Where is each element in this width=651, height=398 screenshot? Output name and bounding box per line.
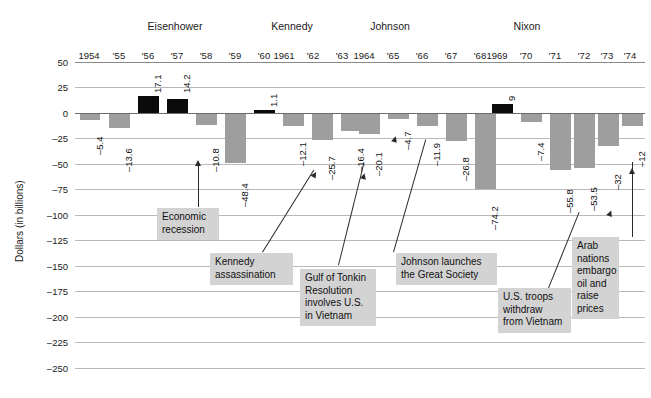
ytick-label-neg25: –25 — [38, 133, 68, 144]
year-label-1968: '68 — [474, 50, 486, 61]
bar-value-1956: 17.1 — [152, 75, 163, 94]
year-label-1970: '70 — [520, 50, 532, 61]
group-label-nixon: Nixon — [514, 20, 541, 32]
year-label-1955: '55 — [113, 50, 125, 61]
bar-value-1974: –12 — [636, 151, 647, 167]
year-label-1961: 1961 — [273, 50, 294, 61]
bar-value-1954: –5.4 — [94, 137, 105, 156]
bar-1956 — [138, 96, 159, 113]
bar-value-1957: 14.2 — [181, 75, 192, 94]
bar-value-1967: –26.8 — [460, 157, 471, 181]
ytick-label-0: 0 — [38, 108, 68, 119]
leader-arrow-kennedy-assassination — [310, 170, 318, 178]
annotation-great-society: Johnson launches the Great Society — [396, 253, 497, 285]
bar-1968 — [475, 114, 496, 189]
year-label-1956: '56 — [142, 50, 154, 61]
ytick-label-neg75: –75 — [38, 184, 68, 195]
year-label-1959: '59 — [229, 50, 241, 61]
ytick-label-neg225: –225 — [34, 337, 68, 348]
bar-value-1963: –16.4 — [355, 148, 366, 172]
year-label-1958: '58 — [200, 50, 212, 61]
bar-value-1959: –48.4 — [239, 183, 250, 207]
bar-value-1971: –55.8 — [564, 189, 575, 213]
year-label-1967: '67 — [445, 50, 457, 61]
year-label-1971: '71 — [549, 50, 561, 61]
federal-deficit-bar-chart: Eisenhower Kennedy Johnson Nixon 1954 '5… — [0, 0, 651, 398]
ytick-label-neg100: –100 — [34, 210, 68, 221]
bar-value-1955: –13.6 — [123, 148, 134, 172]
gridline-neg225 — [75, 342, 645, 343]
leader-line-economic-recession — [198, 165, 199, 207]
year-label-1965: '65 — [387, 50, 399, 61]
gridline-50 — [75, 62, 645, 63]
bar-1955 — [109, 114, 130, 128]
bar-value-1968: –74.2 — [489, 206, 500, 230]
bar-1967 — [446, 114, 467, 141]
bar-value-1965: –4.7 — [402, 132, 413, 151]
gridline-neg150 — [75, 266, 645, 267]
ytick-label-50: 50 — [38, 57, 68, 68]
group-label-kennedy: Kennedy — [271, 20, 312, 32]
gridline-neg75 — [75, 189, 645, 190]
gridline-neg250 — [75, 368, 645, 369]
year-label-1954: 1954 — [78, 50, 99, 61]
annotation-kennedy-assassination: Kennedy assassination — [210, 253, 293, 285]
bar-value-1969: 9 — [506, 96, 517, 101]
annotation-troops-withdraw: U.S. troops withdraw from Vietnam — [498, 288, 571, 333]
bar-1970 — [521, 114, 542, 122]
bar-1972 — [574, 114, 595, 168]
year-label-1972: '72 — [578, 50, 590, 61]
leader-line-great-society — [393, 140, 426, 253]
ytick-label-neg50: –50 — [38, 159, 68, 170]
year-label-1964: 1964 — [353, 50, 374, 61]
year-label-1957: '57 — [171, 50, 183, 61]
bar-value-1970: –7.4 — [535, 143, 546, 162]
ytick-label-neg175: –175 — [34, 286, 68, 297]
ytick-label-neg150: –150 — [34, 261, 68, 272]
ytick-label-25: 25 — [38, 82, 68, 93]
bar-1974 — [622, 114, 643, 126]
bar-1966 — [417, 114, 438, 126]
bar-1954 — [80, 114, 100, 120]
bar-value-1966: –11.9 — [431, 143, 442, 166]
group-label-eisenhower: Eisenhower — [148, 20, 203, 32]
ytick-label-neg125: –125 — [34, 235, 68, 246]
bar-value-1972: –53.5 — [588, 187, 599, 211]
ytick-label-neg250: –250 — [34, 363, 68, 374]
bar-1957 — [167, 99, 188, 113]
bar-1971 — [550, 114, 571, 170]
leader-arrow-economic-recession — [195, 160, 201, 166]
year-label-1960: '60 — [258, 50, 270, 61]
annotation-oil-embargo: Arab nations embargo oil and raise price… — [572, 237, 619, 319]
bar-1969 — [492, 104, 513, 113]
gridline-neg125 — [75, 240, 645, 241]
year-label-1963: '63 — [336, 50, 348, 61]
leader-arrow-great-society — [391, 135, 398, 142]
bar-1958 — [196, 114, 217, 125]
year-label-1974: '74 — [624, 50, 636, 61]
leader-arrow-oil-embargo — [629, 168, 635, 174]
bar-1962 — [312, 114, 333, 140]
year-label-1962: '62 — [307, 50, 319, 61]
bar-value-1962: –25.7 — [326, 156, 337, 180]
bar-1959 — [225, 114, 246, 163]
annotation-gulf-of-tonkin: Gulf of Tonkin Resolution involves U.S. … — [300, 269, 376, 326]
bar-1964 — [359, 114, 380, 134]
bar-value-1960: 1.1 — [268, 94, 279, 107]
leader-arrow-gulf-of-tonkin — [360, 172, 367, 179]
bar-1961 — [283, 114, 304, 126]
annotation-economic-recession: Economic recession — [157, 208, 219, 240]
y-axis-title: Dollars (in billions) — [14, 180, 25, 262]
year-label-1966: '66 — [416, 50, 428, 61]
bar-value-1961: –12.1 — [297, 142, 308, 166]
bar-value-1958: –10.8 — [210, 148, 221, 172]
year-label-1973: '73 — [601, 50, 613, 61]
bar-value-1973: –32 — [612, 174, 623, 190]
bar-1965 — [388, 114, 409, 119]
year-label-1969: 1969 — [486, 50, 507, 61]
ytick-label-neg200: –200 — [34, 312, 68, 323]
bar-1973 — [598, 114, 619, 146]
group-label-johnson: Johnson — [370, 20, 410, 32]
bar-1960 — [254, 110, 275, 113]
bar-value-1964: –20.1 — [373, 152, 384, 176]
